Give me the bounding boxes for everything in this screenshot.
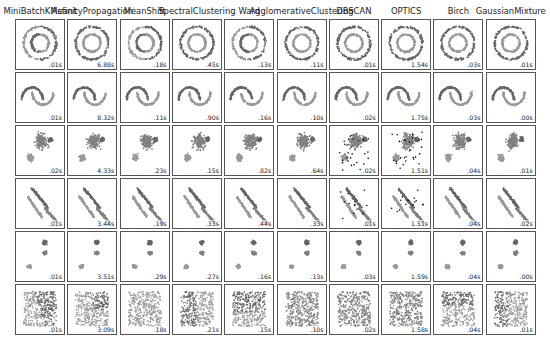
timing-label: .11s bbox=[310, 61, 323, 68]
subplot-blobs-spectralclustering: .27s bbox=[172, 231, 222, 282]
timing-label: .18s bbox=[154, 61, 167, 68]
subplot-noisy_moons-spectralclustering: .90s bbox=[172, 72, 222, 123]
timing-label: .11s bbox=[154, 114, 167, 121]
subplot-no_structure-dbscan: .02s bbox=[329, 284, 379, 335]
timing-label: .01s bbox=[49, 61, 62, 68]
subplot-noisy_circles-dbscan: .01s bbox=[329, 19, 379, 70]
timing-label: .29s bbox=[154, 273, 167, 280]
subplot-varied_blobs-optics: 1.51s bbox=[381, 125, 431, 176]
timing-label: .00s bbox=[520, 273, 533, 280]
subplot-no_structure-birch: .04s bbox=[433, 284, 483, 335]
timing-label: .04s bbox=[467, 273, 480, 280]
subplot-no_structure-asfinitypropagation: 3.09s bbox=[67, 284, 117, 335]
subplot-anisotropic_blobs-asfinitypropagation: 3.44s bbox=[67, 178, 117, 229]
subplot-anisotropic_blobs-minibatchkmeant: .01s bbox=[15, 178, 65, 229]
timing-label: .82s bbox=[258, 167, 271, 174]
subplot-noisy_circles-ward: .13s bbox=[224, 19, 274, 70]
timing-label: 1.51s bbox=[411, 167, 428, 174]
subplot-noisy_circles-optics: 1.54s bbox=[381, 19, 431, 70]
subplot-noisy_moons-agglomerativeclustering: .10s bbox=[277, 72, 327, 123]
column-title: OPTICS bbox=[391, 6, 421, 16]
subplot-anisotropic_blobs-gaussianmixture: .02s bbox=[486, 178, 536, 229]
timing-label: .18s bbox=[154, 326, 167, 333]
subplot-no_structure-optics: 1.58s bbox=[381, 284, 431, 335]
column-title: AsfinityPropagation bbox=[52, 6, 133, 16]
timing-label: .10s bbox=[310, 326, 323, 333]
subplot-noisy_circles-agglomerativeclustering: .11s bbox=[277, 19, 327, 70]
timing-label: .02s bbox=[49, 167, 62, 174]
timing-label: .90s bbox=[206, 114, 219, 121]
timing-label: .01s bbox=[49, 220, 62, 227]
timing-label: .45s bbox=[206, 61, 219, 68]
timing-label: 1.59s bbox=[411, 273, 428, 280]
timing-label: 1.58s bbox=[411, 326, 428, 333]
subplot-noisy_moons-optics: 1.75s bbox=[381, 72, 431, 123]
timing-label: .04s bbox=[467, 326, 480, 333]
timing-label: .01s bbox=[363, 61, 376, 68]
timing-label: .01s bbox=[49, 326, 62, 333]
timing-label: .03s bbox=[467, 114, 480, 121]
subplot-noisy_moons-gaussianmixture: .00s bbox=[486, 72, 536, 123]
column-titles: MiniBatchKMeantAsfinityPropagationMeanSh… bbox=[0, 0, 550, 20]
subplot-blobs-asfinitypropagation: 3.51s bbox=[67, 231, 117, 282]
timing-label: 3.09s bbox=[97, 326, 114, 333]
column-title: SpectralClustering bbox=[158, 6, 235, 16]
timing-label: .16s bbox=[258, 273, 271, 280]
subplot-noisy_circles-asfinitypropagation: 6.88s bbox=[67, 19, 117, 70]
subplot-no_structure-ward: .15s bbox=[224, 284, 274, 335]
subplot-noisy_moons-birch: .03s bbox=[433, 72, 483, 123]
timing-label: .44s bbox=[258, 220, 271, 227]
timing-label: .02s bbox=[363, 326, 376, 333]
subplot-no_structure-minibatchkmeant: .01s bbox=[15, 284, 65, 335]
subplot-anisotropic_blobs-agglomerativeclustering: .33s bbox=[277, 178, 327, 229]
timing-label: .02s bbox=[520, 220, 533, 227]
subplot-noisy_circles-meanshift: .18s bbox=[120, 19, 170, 70]
timing-label: .03s bbox=[363, 273, 376, 280]
timing-label: .19s bbox=[154, 220, 167, 227]
subplot-blobs-meanshift: .29s bbox=[120, 231, 170, 282]
subplot-anisotropic_blobs-dbscan: .01s bbox=[329, 178, 379, 229]
column-title: DBSCAN bbox=[336, 6, 371, 16]
timing-label: .16s bbox=[258, 114, 271, 121]
subplot-noisy_moons-minibatchkmeant: .01s bbox=[15, 72, 65, 123]
timing-label: .64s bbox=[310, 167, 323, 174]
subplot-noisy_circles-spectralclustering: .45s bbox=[172, 19, 222, 70]
timing-label: 3.51s bbox=[97, 273, 114, 280]
timing-label: .10s bbox=[310, 114, 323, 121]
timing-label: .21s bbox=[206, 326, 219, 333]
subplot-anisotropic_blobs-spectralclustering: .33s bbox=[172, 178, 222, 229]
subplot-no_structure-meanshift: .18s bbox=[120, 284, 170, 335]
subplot-no_structure-spectralclustering: .21s bbox=[172, 284, 222, 335]
timing-label: .04s bbox=[467, 167, 480, 174]
timing-label: 1.51s bbox=[411, 220, 428, 227]
column-title: GaussianMixture bbox=[476, 6, 546, 16]
timing-label: .13s bbox=[310, 273, 323, 280]
column-title: Birch bbox=[448, 6, 469, 16]
timing-label: 8.32s bbox=[97, 114, 114, 121]
subplot-anisotropic_blobs-ward: .44s bbox=[224, 178, 274, 229]
subplot-noisy_moons-dbscan: .02s bbox=[329, 72, 379, 123]
subplot-blobs-dbscan: .03s bbox=[329, 231, 379, 282]
subplot-varied_blobs-birch: .04s bbox=[433, 125, 483, 176]
subplot-varied_blobs-spectralclustering: .15s bbox=[172, 125, 222, 176]
timing-label: 1.75s bbox=[411, 114, 428, 121]
subplot-blobs-agglomerativeclustering: .13s bbox=[277, 231, 327, 282]
subplot-no_structure-agglomerativeclustering: .10s bbox=[277, 284, 327, 335]
timing-label: .01s bbox=[520, 167, 533, 174]
subplot-anisotropic_blobs-birch: .04s bbox=[433, 178, 483, 229]
subplot-blobs-gaussianmixture: .00s bbox=[486, 231, 536, 282]
timing-label: 3.44s bbox=[97, 220, 114, 227]
subplot-blobs-minibatchkmeant: .01s bbox=[15, 231, 65, 282]
timing-label: 6.88s bbox=[97, 61, 114, 68]
subplot-blobs-ward: .16s bbox=[224, 231, 274, 282]
subplot-varied_blobs-asfinitypropagation: 4.33s bbox=[67, 125, 117, 176]
subplot-blobs-birch: .04s bbox=[433, 231, 483, 282]
subplot-noisy_moons-meanshift: .11s bbox=[120, 72, 170, 123]
subplot-blobs-optics: 1.59s bbox=[381, 231, 431, 282]
subplot-varied_blobs-meanshift: .23s bbox=[120, 125, 170, 176]
timing-label: .33s bbox=[206, 220, 219, 227]
timing-label: .04s bbox=[467, 220, 480, 227]
timing-label: .01s bbox=[363, 220, 376, 227]
timing-label: .01s bbox=[49, 114, 62, 121]
timing-label: .15s bbox=[206, 167, 219, 174]
